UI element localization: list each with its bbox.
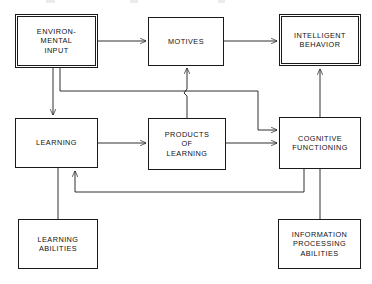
node-cognitive-functioning-label: COGNITIVE FUNCTIONING [292,134,348,153]
node-environmental-input-label: ENVIRON- MENTAL INPUT [37,27,76,55]
node-intelligent-behavior[interactable]: INTELLIGENT BEHAVIOR [279,14,361,66]
edge-cognitive-functioning-to-learning [75,169,304,192]
node-information-processing-abilities[interactable]: INFORMATION PROCESSING ABILITIES [278,219,361,269]
node-learning-label: LEARNING [36,138,77,147]
diagram-canvas: ENVIRON- MENTAL INPUT MOTIVES INTELLIGEN… [0,0,372,284]
node-learning[interactable]: LEARNING [15,118,98,168]
edge-products-of-learning-to-motives [184,68,187,118]
node-motives[interactable]: MOTIVES [148,17,224,66]
node-intelligent-behavior-label: INTELLIGENT BEHAVIOR [294,31,346,50]
node-cognitive-functioning[interactable]: COGNITIVE FUNCTIONING [279,117,361,169]
node-information-processing-abilities-label: INFORMATION PROCESSING ABILITIES [292,230,347,258]
node-products-of-learning-label: PRODUCTS OF LEARNING [165,130,210,158]
node-learning-abilities-label: LEARNING ABILITIES [38,235,79,254]
node-products-of-learning[interactable]: PRODUCTS OF LEARNING [148,118,226,170]
node-learning-abilities[interactable]: LEARNING ABILITIES [18,219,98,269]
node-motives-label: MOTIVES [168,37,204,46]
node-environmental-input[interactable]: ENVIRON- MENTAL INPUT [15,14,98,68]
